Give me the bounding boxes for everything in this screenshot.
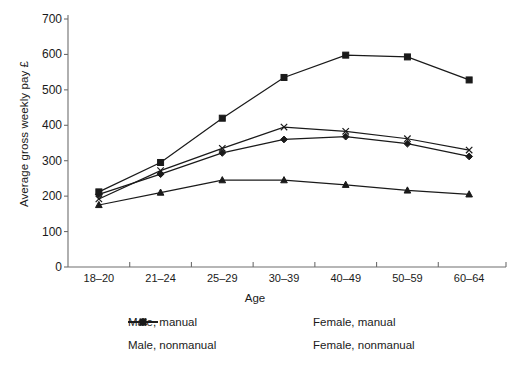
legend-label: Female, manual [313,316,395,328]
data-point [466,153,473,160]
legend-item[interactable]: Female, manual [313,316,498,328]
data-point [219,115,225,121]
data-point [281,136,288,143]
data-point [404,54,410,60]
data-point [466,77,472,83]
data-point [158,159,164,165]
legend-item[interactable]: Male, nonmanual [128,339,313,351]
chart-legend: Male, manualFemale, manualMale, nonmanua… [128,316,498,351]
data-point [281,74,287,80]
plot-area [0,0,510,365]
data-point [343,52,349,58]
legend-label: Male, nonmanual [128,339,216,351]
legend-marker-x-icon [128,316,158,328]
data-point [96,189,102,195]
series-line-female-manual [99,180,469,205]
chart-container: Average gross weekly pay £ Age 010020030… [0,0,510,365]
legend-label: Female, nonmanual [313,339,415,351]
legend-item[interactable]: Female, nonmanual [313,339,498,351]
